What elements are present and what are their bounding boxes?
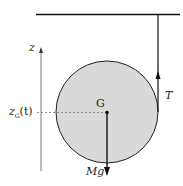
weight-label: Mg (86, 166, 104, 177)
center-label: G (96, 98, 105, 109)
tension-arrowhead-icon (156, 71, 161, 79)
position-label-arg: (t) (20, 105, 33, 118)
position-label: zG(t) (9, 106, 33, 119)
diagram-canvas (0, 0, 183, 186)
z-axis-label: z (29, 42, 35, 53)
pulley-diagram: z zG(t) G T Mg (0, 0, 183, 186)
weight-arrowhead-icon (104, 167, 110, 176)
z-axis-arrowhead-icon (39, 47, 43, 53)
tension-label: T (165, 90, 172, 101)
